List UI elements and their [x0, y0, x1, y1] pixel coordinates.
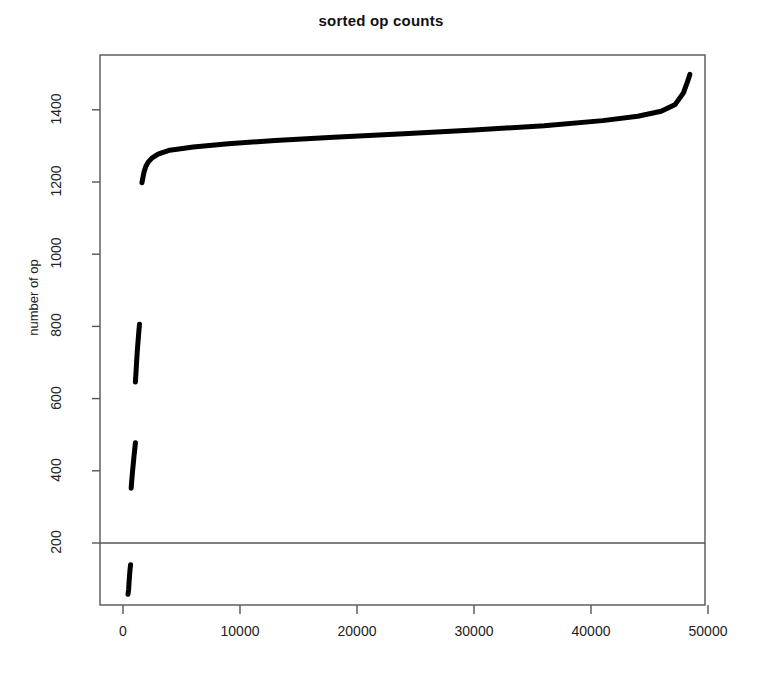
x-tick-label-5: 50000	[663, 623, 753, 639]
x-tick-label-4: 40000	[546, 623, 636, 639]
x-tick-label-3: 30000	[429, 623, 519, 639]
data-series-group	[128, 74, 690, 594]
y-tick-label-2: 600	[48, 370, 64, 426]
y-tick-label-0: 200	[48, 514, 64, 570]
series-0-segment-3	[142, 74, 690, 182]
series-0-segment-0	[128, 565, 131, 595]
chart-figure: sorted op counts number of op 2004006008…	[0, 0, 762, 676]
x-tick-label-1: 10000	[195, 623, 285, 639]
y-tick-label-5: 1200	[48, 153, 64, 209]
y-tick-label-6: 1400	[48, 81, 64, 137]
y-tick-label-4: 1000	[48, 225, 64, 281]
x-tick-label-0: 0	[78, 623, 168, 639]
series-0-segment-2	[135, 324, 139, 382]
plot-box-frame	[100, 55, 705, 605]
x-tick-label-2: 20000	[312, 623, 402, 639]
y-tick-label-1: 400	[48, 442, 64, 498]
y-tick-label-3: 800	[48, 297, 64, 353]
series-0-segment-1	[131, 443, 135, 488]
plot-canvas	[0, 0, 762, 676]
